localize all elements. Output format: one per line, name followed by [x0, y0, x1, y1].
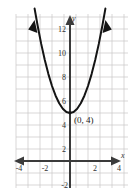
x-tick-label: -2 — [42, 164, 49, 173]
vertex-label: (0, 4) — [74, 115, 94, 125]
y-tick-label: 4 — [62, 121, 66, 130]
x-tick-label: 4 — [117, 164, 121, 173]
x-axis-label: x — [120, 151, 125, 160]
y-tick-label: 12 — [58, 25, 66, 34]
coordinate-plane: x y -4 -2 2 4 12 10 8 6 4 2 -2 (0, 4) — [0, 0, 128, 188]
vertex-point — [69, 112, 72, 115]
x-tick-label: 2 — [93, 164, 97, 173]
y-tick-label: 8 — [62, 73, 66, 82]
y-tick-label: -2 — [61, 181, 68, 188]
y-axis-label: y — [71, 14, 76, 23]
x-tick-label: -4 — [16, 164, 23, 173]
y-tick-label: 6 — [62, 97, 66, 106]
y-tick-label: 10 — [58, 49, 66, 58]
graph-figure: (4) — [0, 0, 128, 188]
y-tick-label: 2 — [62, 145, 66, 154]
